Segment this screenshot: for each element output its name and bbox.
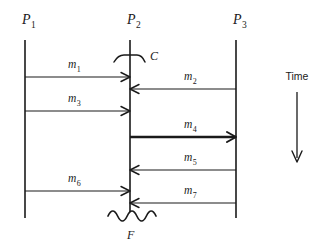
message-m6: m6 (25, 172, 130, 196)
process-label-p1: P1 (21, 12, 36, 30)
time-axis: Time (286, 70, 309, 162)
failure-squiggle-icon (108, 211, 156, 221)
failure-marker-f: F (108, 211, 156, 242)
message-label-m6: m6 (68, 172, 81, 188)
message-label-m7: m7 (184, 184, 197, 200)
diagram-canvas: P1 P2 P3 C m1 m2 m3 (0, 0, 328, 251)
message-m4: m4 (130, 118, 236, 142)
process-label-p3: P3 (232, 12, 247, 30)
checkpoint-marker-c: C (114, 49, 159, 63)
process-label-p2: P2 (126, 12, 141, 30)
message-label-m1: m1 (68, 58, 81, 74)
message-label-m5: m5 (184, 151, 197, 167)
message-m7: m7 (130, 184, 236, 208)
sequence-diagram: P1 P2 P3 C m1 m2 m3 (0, 0, 328, 251)
failure-label-f: F (126, 228, 135, 242)
message-label-m4: m4 (184, 118, 197, 134)
process-label-group: P1 P2 P3 (21, 12, 247, 30)
message-m2: m2 (130, 70, 236, 94)
message-label-m3: m3 (68, 92, 81, 108)
message-m3: m3 (25, 92, 130, 116)
checkpoint-label-c: C (150, 49, 159, 63)
message-label-m2: m2 (184, 70, 197, 86)
time-axis-label: Time (286, 70, 309, 82)
message-m5: m5 (130, 151, 236, 175)
